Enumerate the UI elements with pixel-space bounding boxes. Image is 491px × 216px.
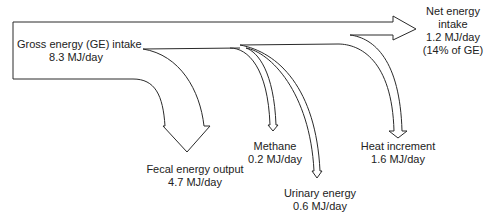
fecal-energy-value: 4.7 MJ/day (140, 176, 250, 189)
methane-value: 0.2 MJ/day (245, 153, 305, 166)
heat-increment-title: Heat increment (355, 140, 441, 153)
net-energy-title-line2: intake (418, 18, 488, 31)
urinary-energy-label: Urinary energy 0.6 MJ/day (280, 187, 360, 213)
net-energy-title-line1: Net energy (418, 5, 488, 18)
urinary-energy-title: Urinary energy (280, 187, 360, 200)
methane-label: Methane 0.2 MJ/day (245, 140, 305, 166)
net-energy-share: (14% of GE) (418, 44, 488, 57)
heat-increment-value: 1.6 MJ/day (355, 153, 441, 166)
gross-energy-title: Gross energy (GE) intake (17, 38, 135, 51)
net-energy-label: Net energy intake 1.2 MJ/day (14% of GE) (418, 5, 488, 57)
heat-increment-label: Heat increment 1.6 MJ/day (355, 140, 441, 166)
gross-energy-label: Gross energy (GE) intake 8.3 MJ/day (17, 38, 135, 64)
fecal-energy-label: Fecal energy output 4.7 MJ/day (140, 163, 250, 189)
net-energy-value: 1.2 MJ/day (418, 31, 488, 44)
fecal-energy-title: Fecal energy output (140, 163, 250, 176)
methane-title: Methane (245, 140, 305, 153)
digestible-energy-band-top (143, 48, 240, 49)
gross-energy-value: 8.3 MJ/day (17, 51, 135, 64)
methane-arrow (230, 48, 278, 131)
fecal-arrow (133, 49, 210, 152)
urinary-energy-value: 0.6 MJ/day (280, 200, 360, 213)
